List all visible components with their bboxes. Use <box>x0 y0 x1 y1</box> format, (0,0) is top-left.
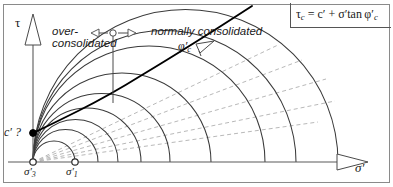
sigma1-subscript: 1 <box>74 170 78 179</box>
phi-subscript: c <box>187 44 191 54</box>
radial-line-1 <box>33 122 318 162</box>
over-consolidated-line-2: consolidated <box>52 37 117 49</box>
radial-line-3 <box>33 79 326 162</box>
over-consolidated-line-1: over- <box>52 25 117 37</box>
figure-root: τ σ′ over- consolidated normally consoli… <box>0 0 393 187</box>
sigma3-symbol: σ′ <box>24 165 32 177</box>
sigma3-subscript: 3 <box>32 170 36 179</box>
tau-axis-label: τ <box>15 16 20 30</box>
over-consolidated-label: over- consolidated <box>52 25 117 49</box>
failure-criterion-equation: τc = c′ + σ′tan φ′c <box>296 7 378 22</box>
tau-axis-arrowhead <box>25 14 41 45</box>
equation-phi: φ′ <box>364 7 374 21</box>
normally-consolidated-label: normally consolidated <box>151 25 262 37</box>
right-arrowhead <box>128 29 136 37</box>
sigma-axis-label: σ′ <box>355 161 364 175</box>
mohr-circle-8 <box>33 31 296 163</box>
sigma1-symbol: σ′ <box>66 165 74 177</box>
sigma3-label: σ′3 <box>24 166 36 180</box>
mohr-circle-7 <box>33 46 265 162</box>
sigma1-label: σ′1 <box>66 166 78 180</box>
friction-angle-label: φ′c <box>178 40 191 54</box>
mohr-circle-4 <box>33 108 141 162</box>
cohesion-query-label: c′ ? <box>4 126 21 139</box>
equation-tan: tan <box>347 7 364 21</box>
equation-sigma: σ′ <box>338 7 347 21</box>
phi-symbol: φ′ <box>178 39 187 53</box>
cohesion-intercept-dot <box>30 130 37 137</box>
radial-line-4 <box>33 60 302 162</box>
